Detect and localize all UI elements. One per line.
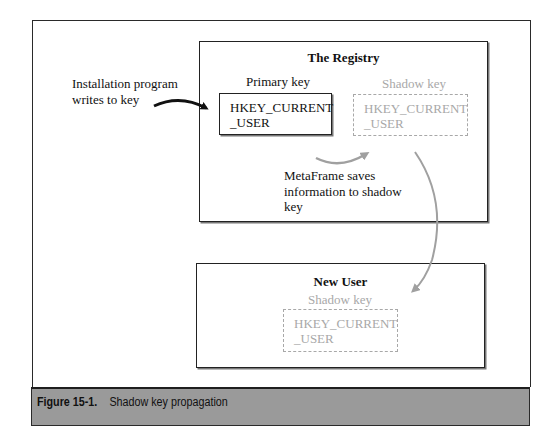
shadow-key-label-registry: Shadow key xyxy=(382,76,446,92)
caption-bar: Figure 15-1.Shadow key propagation xyxy=(31,387,530,426)
shadow-key-box-registry: HKEY_CURRENT _USER xyxy=(353,94,468,136)
metaframe-note-line1: MetaFrame saves xyxy=(284,168,402,184)
figure-caption-text: Shadow key propagation xyxy=(109,395,227,409)
primary-key-label: Primary key xyxy=(246,74,310,90)
figure-caption: Figure 15-1.Shadow key propagation xyxy=(37,395,228,409)
installation-note-line1: Installation program xyxy=(72,76,178,92)
figure-number: Figure 15-1. xyxy=(37,395,97,409)
installation-note: Installation program writes to key xyxy=(72,76,178,107)
metaframe-note: MetaFrame saves information to shadow ke… xyxy=(284,168,402,215)
shadow-key-line1: HKEY_CURRENT xyxy=(364,101,467,116)
primary-key-line1: HKEY_CURRENT xyxy=(230,100,331,115)
installation-note-line2: writes to key xyxy=(72,92,178,108)
registry-title: The Registry xyxy=(200,50,487,66)
primary-key-box: HKEY_CURRENT _USER xyxy=(219,93,332,135)
shadow-key-box-new-user: HKEY_CURRENT _USER xyxy=(283,309,398,352)
new-user-title: New User xyxy=(197,274,484,290)
shadow-key-label-new-user: Shadow key xyxy=(308,292,372,308)
shadow-key-line2: _USER xyxy=(364,116,467,131)
primary-key-line2: _USER xyxy=(230,115,331,130)
shadow-key-line1: HKEY_CURRENT xyxy=(294,316,397,331)
metaframe-note-line2: information to shadow xyxy=(284,184,402,200)
shadow-key-line2: _USER xyxy=(294,331,397,346)
metaframe-note-line3: key xyxy=(284,199,402,215)
